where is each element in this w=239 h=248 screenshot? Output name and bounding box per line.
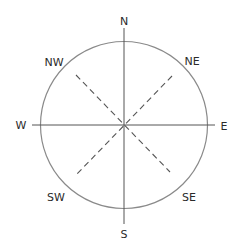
label-northeast: NE <box>184 56 199 67</box>
label-southeast: SE <box>182 192 196 203</box>
label-north: N <box>120 16 128 27</box>
label-east: E <box>221 121 228 132</box>
label-west: W <box>16 120 27 131</box>
compass-rose-diagram: N NE E SE S SW W NW <box>0 0 239 248</box>
nw-se-diagonal <box>76 75 170 172</box>
label-southwest: SW <box>47 192 65 203</box>
label-south: S <box>121 229 128 240</box>
label-northwest: NW <box>44 57 63 68</box>
compass-svg <box>0 0 239 248</box>
